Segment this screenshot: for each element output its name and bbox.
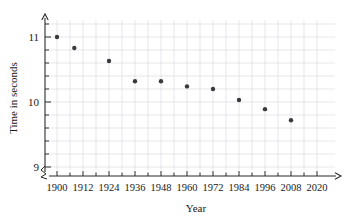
y-tick-label: 11 [28,31,39,43]
data-point [185,84,189,88]
data-point [55,35,59,39]
plot-canvas: 1900191219241936194819601972198419962008… [0,0,349,217]
y-tick-label: 10 [28,96,40,108]
data-point [289,118,293,122]
x-tick-label: 1912 [73,182,94,193]
y-axis-ticks [45,24,51,167]
x-axis-ticks [57,171,317,176]
x-axis-tick-labels: 1900191219241936194819601972198419962008… [47,182,328,193]
data-point [211,87,215,91]
gridlines [48,20,335,170]
data-point [237,98,241,102]
axes [41,14,341,179]
x-tick-label: 1960 [177,182,198,193]
x-tick-label: 2020 [307,182,328,193]
x-tick-label: 1972 [203,182,224,193]
x-tick-label: 1936 [125,182,146,193]
x-tick-label: 1900 [47,182,68,193]
y-axis-tick-labels: 91011 [28,31,40,173]
data-point [263,107,267,111]
x-tick-label: 1948 [151,182,172,193]
y-tick-label: 9 [34,161,40,173]
x-tick-label: 2008 [281,182,302,193]
x-axis-title: Year [186,202,207,214]
data-point [107,59,111,63]
axis-break-icon [41,166,47,179]
scatter-plot: 1900191219241936194819601972198419962008… [0,0,349,217]
y-axis-title: Time in seconds [7,62,19,134]
data-point [133,79,137,83]
x-tick-label: 1924 [99,182,121,193]
data-point [72,46,76,50]
x-tick-label: 1996 [255,182,276,193]
x-tick-label: 1984 [229,182,251,193]
data-point [159,79,163,83]
